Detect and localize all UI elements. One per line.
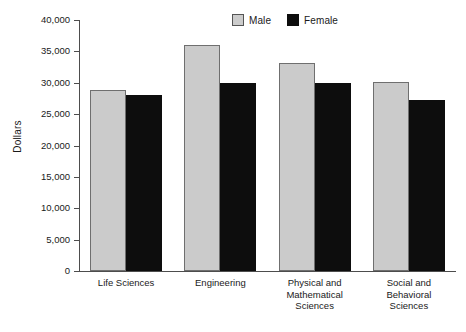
y-axis-tick: 10,000 [74, 208, 79, 209]
bar-female-3 [315, 83, 351, 271]
x-axis-category-label: Engineering [173, 277, 267, 289]
y-axis-tick-label: 35,000 [41, 45, 70, 56]
plot-area: 05,00010,00015,00020,00025,00030,00035,0… [79, 20, 456, 272]
x-axis-category-label-line: Mathematical [268, 289, 362, 301]
x-axis-category-label: Life Sciences [79, 277, 173, 289]
x-axis-category-label-line: Behavioral [362, 289, 456, 301]
y-axis-tick: 5,000 [74, 240, 79, 241]
bar-female-2 [220, 83, 256, 271]
bar-chart: Male Female Dollars 05,00010,00015,00020… [0, 0, 466, 332]
y-axis-tick: 25,000 [74, 114, 79, 115]
x-axis-category-label-line: Physical and [268, 277, 362, 289]
x-axis-line [79, 271, 456, 272]
y-axis-tick: 40,000 [74, 20, 79, 21]
y-axis-tick: 0 [74, 271, 79, 272]
bar-male-1 [90, 90, 126, 271]
y-axis-tick-label: 25,000 [41, 108, 70, 119]
y-axis-tick-label: 0 [65, 265, 70, 276]
y-axis-tick: 20,000 [74, 146, 79, 147]
y-axis-tick-label: 15,000 [41, 171, 70, 182]
y-axis-line [79, 20, 80, 272]
y-axis-tick: 15,000 [74, 177, 79, 178]
x-axis-category-label-line: Sciences [268, 300, 362, 312]
x-axis-category-label: Physical andMathematicalSciences [268, 277, 362, 312]
x-axis-category-label-line: Sciences [362, 300, 456, 312]
x-axis-category-label-line: Engineering [173, 277, 267, 289]
bar-male-4 [373, 82, 409, 271]
y-axis-tick-label: 30,000 [41, 77, 70, 88]
x-axis-category-label-line: Social and [362, 277, 456, 289]
bar-male-2 [184, 45, 220, 271]
bar-female-1 [126, 95, 162, 271]
y-axis-tick-label: 5,000 [46, 234, 70, 245]
bar-male-3 [279, 63, 315, 271]
x-axis-category-label-line: Life Sciences [79, 277, 173, 289]
bar-female-4 [409, 100, 445, 271]
y-axis-tick-label: 10,000 [41, 202, 70, 213]
y-axis-tick-label: 20,000 [41, 140, 70, 151]
y-axis-title: Dollars [8, 0, 26, 272]
y-axis-tick: 30,000 [74, 83, 79, 84]
y-axis-title-text: Dollars [12, 120, 23, 153]
y-axis-tick: 35,000 [74, 51, 79, 52]
x-axis-category-label: Social andBehavioralSciences [362, 277, 456, 312]
y-axis-tick-label: 40,000 [41, 14, 70, 25]
